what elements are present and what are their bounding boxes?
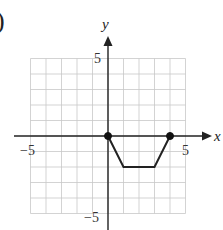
x-tick-pos5: 5 <box>182 143 189 158</box>
y-tick-pos5: 5 <box>94 51 101 66</box>
y-axis-arrow-icon <box>104 36 113 46</box>
x-axis-arrow-icon <box>202 132 212 141</box>
x-axis-label: x <box>213 128 221 144</box>
y-axis-label: y <box>100 16 109 32</box>
y-tick-neg5: −5 <box>84 210 99 225</box>
endpoint-dot <box>105 133 112 140</box>
x-tick-neg5: −5 <box>20 143 35 158</box>
endpoint-dot <box>167 133 174 140</box>
coordinate-plane: x y −5 5 5 −5 <box>0 0 223 230</box>
